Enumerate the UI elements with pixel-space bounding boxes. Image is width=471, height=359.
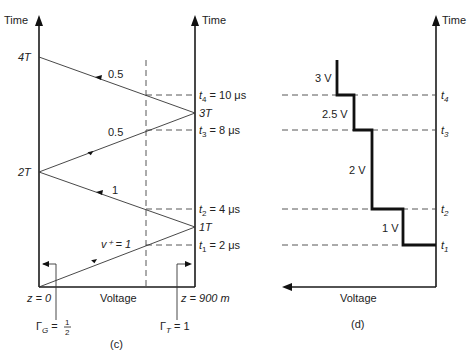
- caption-d: (d): [351, 318, 364, 330]
- panel-d: Time Voltage t4 t3 t2 t1 3 V 2.5 V 2 V 1…: [282, 14, 466, 330]
- arrow-icon: [42, 261, 49, 267]
- voltage-label-c: Voltage: [100, 292, 137, 304]
- z-left-label: z = 0: [26, 292, 52, 304]
- gamma-g-label: ΓG=: [36, 320, 58, 335]
- gamma-g-numerator: 1: [65, 318, 70, 327]
- mark-3T: 3T: [199, 107, 213, 119]
- left-axis-label: Time: [4, 14, 28, 26]
- wave-1-forward: [39, 227, 195, 287]
- d-voltage-arrow-icon: [282, 283, 292, 291]
- right-axis-arrow-icon: [191, 15, 199, 26]
- left-axis-arrow-icon: [35, 15, 43, 26]
- mark-1T: 1T: [199, 221, 213, 233]
- t3-value: t3 = 8 μs: [199, 124, 241, 139]
- voltage-2-5v: 2.5 V: [322, 108, 348, 120]
- wave-label-1: v⁺ = 1: [101, 238, 131, 250]
- arrow-icon: [91, 258, 98, 264]
- wave-4-reflected: [39, 57, 195, 113]
- t4-value: t4 = 10 μs: [199, 89, 247, 104]
- wave-label-3: 0.5: [108, 126, 123, 138]
- wave-2-reflected: [39, 172, 195, 227]
- d-t2-label: t2: [441, 203, 449, 218]
- t1-value: t1 = 2 μs: [199, 239, 241, 254]
- d-voltage-label: Voltage: [340, 292, 377, 304]
- d-t4-label: t4: [441, 89, 449, 104]
- d-t1-label: t1: [441, 239, 449, 254]
- voltage-1v: 1 V: [382, 222, 399, 234]
- mark-2T: 2T: [17, 166, 32, 178]
- arrow-icon: [96, 190, 103, 195]
- right-axis-label: Time: [202, 14, 226, 26]
- d-t3-label: t3: [441, 124, 449, 139]
- t2-value: t2 = 4 μs: [199, 203, 241, 218]
- d-axis-arrow-icon: [432, 15, 440, 26]
- voltage-3v: 3 V: [315, 72, 332, 84]
- gamma-g-denominator: 2: [65, 328, 70, 337]
- bounce-diagram-figure: Time Time 4T 2T 3T 1T t4 = 10 μs t3 =: [0, 0, 471, 359]
- wave-label-2: 1: [112, 184, 118, 196]
- gamma-t-label: ΓT = 1: [160, 320, 190, 335]
- voltage-step-waveform: [337, 60, 436, 245]
- panel-c: Time Time 4T 2T 3T 1T t4 = 10 μs t3 =: [4, 14, 247, 350]
- z-right-label: z = 900 m: [180, 292, 230, 304]
- caption-c: (c): [110, 338, 123, 350]
- wave-label-4: 0.5: [108, 68, 123, 80]
- d-axis-label: Time: [442, 14, 466, 26]
- arrow-icon: [95, 75, 102, 80]
- arrow-icon: [185, 261, 192, 267]
- mark-4T: 4T: [18, 51, 32, 63]
- wave-3-forward: [39, 113, 195, 172]
- voltage-2v: 2 V: [349, 164, 366, 176]
